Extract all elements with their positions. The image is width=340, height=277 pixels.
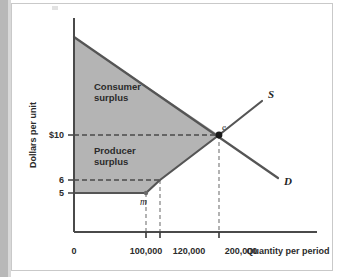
x-tick-label-0: 0 bbox=[71, 246, 76, 256]
equilibrium-label: e bbox=[222, 122, 226, 132]
y-tick-label-5: 5 bbox=[59, 188, 64, 198]
scan-artifact-mark bbox=[52, 6, 58, 10]
supply-curve-label: S bbox=[268, 88, 274, 100]
y-axis-title: Dollars per unit bbox=[28, 102, 38, 168]
x-tick-label-120k: 120,000 bbox=[173, 246, 206, 256]
y-tick-label-10: $10 bbox=[49, 130, 64, 140]
x-tick-label-100k: 100,000 bbox=[130, 246, 163, 256]
equilibrium-point-marker bbox=[216, 132, 223, 139]
producer-surplus-label-line1: Producer bbox=[94, 145, 136, 156]
kink-point-marker bbox=[144, 191, 148, 195]
y-tick-label-6: 6 bbox=[59, 175, 64, 185]
page-left-gutter bbox=[0, 0, 8, 277]
supply-demand-chart: Consumer surplus Producer surplus S D e … bbox=[12, 4, 332, 270]
x-axis-title: Quantity per period bbox=[246, 246, 329, 256]
producer-surplus-label-line2: surplus bbox=[94, 156, 128, 167]
demand-curve-label: D bbox=[283, 175, 292, 187]
figure-card: Consumer surplus Producer surplus S D e … bbox=[11, 3, 333, 271]
consumer-surplus-label-line2: surplus bbox=[94, 92, 128, 103]
consumer-surplus-label-line1: Consumer bbox=[94, 81, 141, 92]
kink-point-label: m bbox=[140, 197, 147, 207]
figure-page: Consumer surplus Producer surplus S D e … bbox=[0, 0, 340, 277]
